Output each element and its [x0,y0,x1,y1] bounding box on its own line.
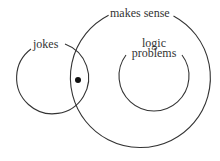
logic-problems-circle [119,55,189,111]
jokes-label: jokes [32,37,59,51]
makes-sense-label: makes sense [110,6,170,20]
venn-diagram: makes sense jokes logic problems [0,0,220,161]
intersection-dot [75,77,81,83]
makes-sense-circle [70,15,210,147]
problems-label: problems [132,46,177,60]
